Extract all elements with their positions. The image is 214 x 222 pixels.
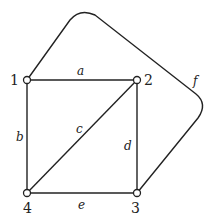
- edge-label-e: e: [78, 198, 85, 212]
- edge-label-c: c: [76, 122, 83, 136]
- node-label-4: 4: [23, 200, 32, 216]
- node-3: [134, 190, 141, 197]
- graph-diagram: 1 2 3 4 a b c d e f: [0, 0, 214, 222]
- node-1: [24, 77, 31, 84]
- node-2: [134, 77, 141, 84]
- edge-label-b: b: [16, 130, 24, 144]
- edge-label-a: a: [77, 64, 84, 78]
- edge-label-d: d: [124, 139, 132, 153]
- edge-label-f: f: [192, 74, 200, 88]
- node-4: [24, 190, 31, 197]
- node-label-3: 3: [131, 200, 140, 216]
- node-label-2: 2: [144, 72, 153, 88]
- edge-c: [27, 80, 137, 193]
- node-label-1: 1: [10, 72, 19, 88]
